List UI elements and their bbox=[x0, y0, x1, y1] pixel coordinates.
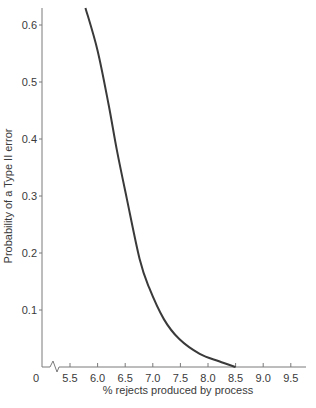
x-axis: 5.56.06.57.07.58.08.59.09.5 bbox=[42, 361, 306, 384]
x-tick-label: 6.0 bbox=[90, 372, 105, 384]
y-tick-label: 0.4 bbox=[22, 133, 37, 145]
y-axis-title: Probability of a Type II error bbox=[2, 128, 14, 263]
x-axis-title: % rejects produced by process bbox=[103, 384, 254, 396]
y-tick-label: 0.3 bbox=[22, 190, 37, 202]
y-axis: 0.10.20.30.40.50.6 bbox=[22, 8, 42, 367]
y-tick-label: 0.1 bbox=[22, 304, 37, 316]
x-tick-label: 6.5 bbox=[118, 372, 133, 384]
x-tick-label: 7.5 bbox=[173, 372, 188, 384]
x-axis-line-with-break bbox=[42, 361, 306, 372]
y-tick-label: 0.5 bbox=[22, 76, 37, 88]
x-tick-label: 8.0 bbox=[200, 372, 215, 384]
x-tick-label: 9.0 bbox=[256, 372, 271, 384]
type-ii-error-chart: 0.10.20.30.40.50.6 5.56.06.57.07.58.08.5… bbox=[0, 0, 316, 408]
x-tick-label: 7.0 bbox=[145, 372, 160, 384]
data-series bbox=[85, 8, 235, 367]
x-tick-label: 8.5 bbox=[228, 372, 243, 384]
x-tick-label: 5.5 bbox=[62, 372, 77, 384]
y-tick-label: 0.6 bbox=[22, 19, 37, 31]
type-ii-error-curve bbox=[85, 8, 235, 367]
x-tick-label: 9.5 bbox=[283, 372, 298, 384]
x-origin-label: 0 bbox=[33, 372, 39, 384]
y-tick-label: 0.2 bbox=[22, 247, 37, 259]
